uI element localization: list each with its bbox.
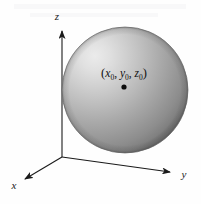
center-point-dot [121,84,126,89]
sphere-rim-shading [62,27,188,153]
figure-canvas: z x y (x0, y0, z0) [0,0,201,204]
sphere-coordinate-figure: z x y (x0, y0, z0) [0,0,201,204]
z-axis-label: z [54,10,60,22]
label-close-paren: ) [143,66,147,80]
y-axis-label: y [181,168,187,180]
scan-artifact-band [14,4,186,17]
x-axis-label: x [11,179,17,191]
y-axis-line [62,157,170,172]
x-axis-line [25,157,62,179]
